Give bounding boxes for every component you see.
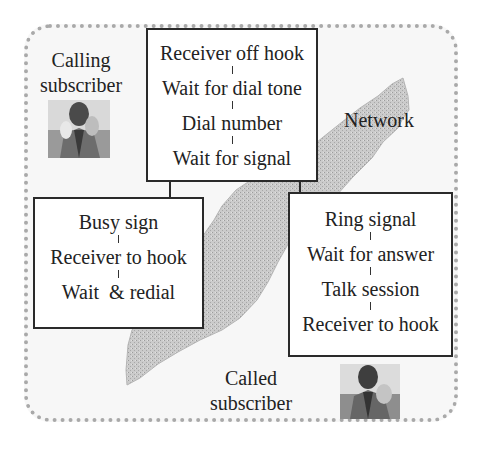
step-wait-redial: Wait & redial — [35, 281, 202, 303]
step-separator — [118, 235, 119, 243]
step-receiver-off-hook: Receiver off hook — [148, 42, 316, 64]
step-dial-number: Dial number — [148, 112, 316, 134]
connected-steps-box: Ring signal Wait for answer Talk session… — [288, 192, 453, 357]
step-receiver-to-hook-end: Receiver to hook — [290, 313, 451, 335]
step-talk-session: Talk session — [290, 278, 451, 300]
step-separator — [370, 232, 371, 240]
step-ring-signal: Ring signal — [290, 208, 451, 230]
calling-label-line2: subscriber — [26, 73, 136, 98]
step-separator — [370, 267, 371, 275]
step-separator — [370, 302, 371, 310]
called-label-line2: subscriber — [196, 391, 306, 416]
busy-steps-box: Busy sign Receiver to hook Wait & redial — [33, 197, 204, 329]
step-wait-for-signal: Wait for signal — [148, 147, 316, 169]
step-wait-for-answer: Wait for answer — [290, 243, 451, 265]
network-label: Network — [334, 108, 424, 133]
called-label-line1: Called — [196, 366, 306, 391]
step-separator — [118, 270, 119, 278]
calling-label-line1: Calling — [26, 48, 136, 73]
calling-steps-box: Receiver off hook Wait for dial tone Dia… — [146, 28, 318, 182]
calling-subscriber-photo-icon — [48, 100, 110, 158]
step-receiver-to-hook: Receiver to hook — [35, 246, 202, 268]
called-subscriber-label: Called subscriber — [196, 366, 306, 416]
step-separator — [232, 136, 233, 144]
step-separator — [232, 66, 233, 74]
calling-subscriber-label: Calling subscriber — [26, 48, 136, 98]
step-separator — [232, 101, 233, 109]
step-wait-dial-tone: Wait for dial tone — [148, 77, 316, 99]
called-subscriber-photo-icon — [340, 364, 400, 419]
step-busy-sign: Busy sign — [35, 211, 202, 233]
